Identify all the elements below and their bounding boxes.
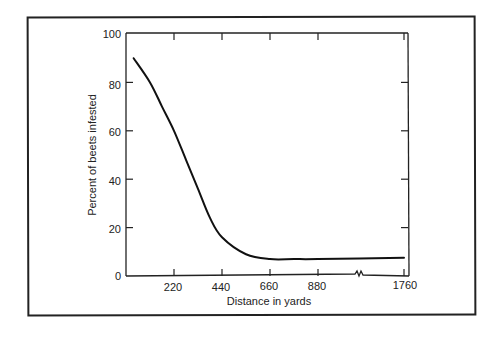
y-tick-label: 80 xyxy=(109,79,121,91)
data-line xyxy=(134,58,404,259)
chart: 0 20 40 60 80 100 220 440 660 880 1760 D… xyxy=(0,0,487,337)
y-tick-label: 40 xyxy=(109,175,121,187)
x-tick-label: 660 xyxy=(260,280,278,292)
x-tick-label: 440 xyxy=(212,281,230,293)
x-tick-label: 1760 xyxy=(393,279,417,291)
x-axis-title: Distance in yards xyxy=(227,295,312,307)
x-axis xyxy=(126,271,409,276)
plot-area xyxy=(126,33,409,276)
x-tick-labels: 220 440 660 880 1760 xyxy=(164,279,417,293)
y-tick-labels: 0 20 40 60 80 100 xyxy=(103,28,121,282)
y-tick-label: 60 xyxy=(109,126,121,138)
axis-ticks xyxy=(126,33,408,276)
y-axis-title: Percent of beets infested xyxy=(86,94,98,216)
right-border xyxy=(408,33,409,276)
y-tick-label: 100 xyxy=(103,28,121,40)
x-tick-label: 220 xyxy=(164,281,182,293)
y-tick-label: 0 xyxy=(115,270,121,282)
y-tick-label: 20 xyxy=(109,223,121,235)
x-tick-label: 880 xyxy=(308,280,326,292)
